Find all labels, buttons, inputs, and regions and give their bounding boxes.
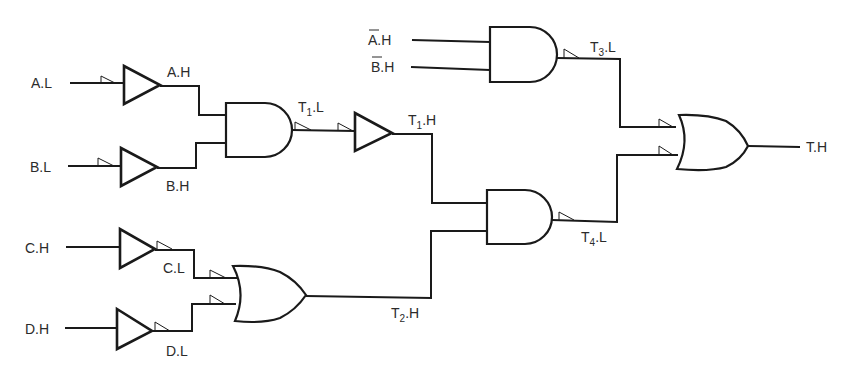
- wire-a-h: [160, 86, 226, 115]
- label-d-h: D.H: [25, 321, 49, 337]
- wire-abar-h: [412, 40, 490, 42]
- buffer-t1-gate: [355, 113, 392, 151]
- buffer-d-gate: [117, 309, 152, 349]
- label-t2-h: T2.H: [391, 305, 419, 324]
- or-gate-1: [233, 266, 306, 322]
- buffer-b-gate: [121, 148, 157, 186]
- label-c-l: C.L: [163, 260, 185, 276]
- low-indicator-icon: [659, 146, 673, 155]
- label-t3-l: T3.L: [590, 39, 616, 58]
- buffer-c-gate: [120, 229, 155, 268]
- wire-t4-l: [552, 155, 678, 222]
- and-gate-3: [490, 27, 557, 82]
- wire-t1-l: [292, 130, 355, 131]
- low-indicator-icon: [155, 322, 170, 331]
- low-indicator-icon: [101, 76, 115, 83]
- buffer-a-gate: [124, 66, 160, 104]
- or-gate-output: [677, 115, 748, 170]
- wire-t1-h: [392, 134, 487, 203]
- low-indicator-icon: [559, 212, 574, 220]
- low-indicator-icon: [210, 270, 226, 278]
- logic-circuit-diagram: A.L A.H B.L B.H T1.L T1.H C.H C.L D.H D.…: [0, 0, 851, 376]
- label-t1-h: T1.H: [408, 112, 436, 131]
- and-gate-4: [487, 190, 552, 244]
- and-gate-1: [226, 103, 292, 157]
- label-c-h: C.H: [25, 240, 49, 256]
- label-abar-h: A.H: [368, 32, 391, 48]
- wire-bbar-h: [411, 67, 490, 70]
- label-b-h: B.H: [166, 178, 189, 194]
- low-indicator-icon: [659, 119, 673, 127]
- label-output-t-h: T.H: [806, 139, 827, 155]
- wire-b-h: [157, 143, 226, 168]
- wire-d-l: [152, 304, 236, 331]
- wire-t2-h: [306, 231, 487, 298]
- label-t4-l: T4.L: [581, 229, 607, 248]
- low-indicator-icon: [210, 295, 225, 304]
- label-a-h: A.H: [167, 64, 190, 80]
- wire-t3-l: [557, 58, 676, 127]
- label-a-l: A.L: [31, 75, 52, 91]
- low-indicator-icon: [157, 241, 172, 249]
- low-indicator-icon: [564, 49, 579, 58]
- wire-output: [748, 146, 800, 147]
- label-d-l: D.L: [166, 343, 188, 359]
- label-t1-l: T1.L: [298, 99, 324, 118]
- label-b-l: B.L: [30, 159, 51, 175]
- label-bbar-h: B.H: [371, 59, 394, 75]
- low-indicator-icon: [295, 122, 311, 130]
- low-indicator-icon: [98, 158, 114, 166]
